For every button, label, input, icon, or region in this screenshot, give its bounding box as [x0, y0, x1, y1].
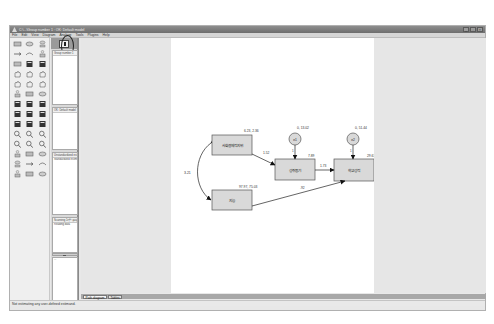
path-ses-motivation[interactable] — [252, 154, 275, 165]
scroll-button[interactable] — [12, 100, 22, 108]
select-data-files-button[interactable] — [37, 100, 47, 108]
files-item: ... — [53, 258, 77, 261]
duplicate-objects-button[interactable] — [37, 70, 47, 78]
amos-window: C:\...\Group number 1 : OK: Default mode… — [9, 25, 486, 311]
path-ses-motivation-label: 1.52 — [263, 151, 270, 155]
node-ses-label: 사회경제적지위 — [222, 143, 243, 148]
standardized-estimates-item[interactable]: Standardized estimates — [53, 158, 77, 161]
tab-path-diagram[interactable]: Path diagram — [83, 295, 107, 299]
group-item[interactable]: Group number 1 — [53, 51, 77, 56]
reflect-indicators-button[interactable] — [25, 90, 35, 98]
node-e2-label: e2 — [351, 138, 355, 142]
bootstrap-icon — [13, 160, 22, 168]
amos-app-icon — [12, 27, 17, 32]
menu-tools[interactable]: Tools — [76, 33, 84, 37]
add-unique-variable-button[interactable] — [37, 50, 47, 58]
loupe-icon — [25, 150, 34, 158]
undo-icon — [13, 170, 22, 178]
zoom-selected-button[interactable] — [12, 140, 22, 148]
path-e1-motivation-label: 1 — [292, 149, 294, 153]
node-achievement-stats: 29.63 — [367, 154, 374, 158]
models-list[interactable]: OK: Default model — [52, 107, 78, 150]
draw-covariance-icon — [25, 50, 34, 58]
copy-to-clipboard-button[interactable] — [12, 120, 22, 128]
specification-search-binoculars-button[interactable] — [37, 170, 47, 178]
move-parameter-values-button[interactable] — [37, 90, 47, 98]
redo-button[interactable] — [25, 170, 35, 178]
select-all-objects-button[interactable] — [12, 70, 22, 78]
analysis-properties-button[interactable] — [12, 110, 22, 118]
groups-list[interactable]: Group number 1 — [52, 50, 78, 105]
draw-unobserved-variable-button[interactable] — [25, 40, 35, 48]
path-motivation-achievement-label: 1.73 — [320, 164, 327, 168]
move-objects-button[interactable] — [12, 80, 22, 88]
deselect-all-objects-icon — [25, 70, 34, 78]
loupe-button[interactable] — [25, 150, 35, 158]
specification-search-button[interactable] — [37, 160, 47, 168]
drag-properties-button[interactable] — [12, 130, 22, 138]
zoom-page-icon — [38, 140, 47, 148]
view-text-button[interactable] — [37, 110, 47, 118]
change-shape-button[interactable] — [37, 80, 47, 88]
select-data-files-icon — [38, 100, 47, 108]
menu-plugins[interactable]: Plugins — [87, 33, 98, 37]
zoom-out-button[interactable] — [25, 140, 35, 148]
select-all-objects-icon — [13, 70, 22, 78]
menu-help[interactable]: Help — [103, 33, 110, 37]
view-text-icon — [38, 110, 47, 118]
menu-edit[interactable]: Edit — [21, 33, 27, 37]
multiple-group-icon — [25, 160, 34, 168]
maximize-button[interactable]: □ — [470, 27, 476, 32]
bootstrap-button[interactable] — [12, 160, 22, 168]
path-iq-achievement[interactable] — [252, 181, 345, 206]
zoom-page-button[interactable] — [37, 140, 47, 148]
zoom-out-icon — [25, 140, 34, 148]
estimates-list[interactable]: Unstandardized estimates Standardized es… — [52, 152, 78, 215]
scrollbar-thumb[interactable] — [63, 255, 66, 257]
menu-view[interactable]: View — [31, 33, 38, 37]
minimize-button[interactable]: _ — [463, 27, 469, 32]
covariance-ses-iq[interactable] — [198, 143, 212, 200]
menu-file[interactable]: File — [12, 33, 17, 37]
bayesian-estimation-button[interactable] — [37, 150, 47, 158]
close-button[interactable]: × — [477, 27, 483, 32]
view-output-toggle[interactable] — [51, 38, 77, 49]
draw-latent-variable-indicator-button[interactable] — [37, 40, 47, 48]
touch-up-button[interactable] — [25, 100, 35, 108]
diagram-page[interactable]: 3.21 사회경제적지위 6.23, 2.36 지능 97.97, 75.03 … — [171, 38, 374, 293]
model-item[interactable]: OK: Default model — [53, 108, 77, 113]
touch-up-icon — [25, 100, 34, 108]
list-variables-in-model-button[interactable] — [12, 60, 22, 68]
rotate-indicators-button[interactable] — [12, 90, 22, 98]
view-tabs: Path diagram Tables — [81, 294, 486, 299]
draw-covariance-button[interactable] — [25, 50, 35, 58]
calculate-estimates-button[interactable] — [25, 110, 35, 118]
erase-objects-button[interactable] — [25, 80, 35, 88]
deselect-all-objects-button[interactable] — [25, 70, 35, 78]
status-bar: Not estimating any user-defined estimand… — [10, 300, 485, 306]
save-diagram-button[interactable] — [25, 120, 35, 128]
object-properties-button[interactable] — [37, 120, 47, 128]
list-variables-in-dataset-button[interactable] — [25, 60, 35, 68]
multiple-group-button[interactable] — [25, 160, 35, 168]
fit-to-page-button[interactable] — [12, 150, 22, 158]
horizontal-scrollbar[interactable] — [52, 253, 78, 256]
analysis-properties-icon — [13, 110, 22, 118]
status-text: Not estimating any user-defined estimand… — [12, 302, 76, 306]
draw-path-button[interactable] — [12, 50, 22, 58]
select-one-object-button[interactable] — [37, 60, 47, 68]
undo-button[interactable] — [12, 170, 22, 178]
files-list[interactable]: ... — [52, 257, 78, 305]
model-panel: Group number 1 OK: Default model Unstand… — [51, 38, 79, 306]
draw-observed-variable-button[interactable] — [12, 40, 22, 48]
path-diagram[interactable]: 3.21 사회경제적지위 6.23, 2.36 지능 97.97, 75.03 … — [171, 38, 374, 293]
tab-tables[interactable]: Tables — [108, 295, 122, 299]
menu-diagram[interactable]: Diagram — [43, 33, 56, 37]
draw-unobserved-variable-icon — [25, 40, 34, 48]
object-properties-icon — [38, 120, 47, 128]
preserve-symmetries-button[interactable] — [25, 130, 35, 138]
draw-path-icon — [13, 50, 22, 58]
diagram-canvas-area[interactable]: 3.21 사회경제적지위 6.23, 2.36 지능 97.97, 75.03 … — [81, 38, 486, 293]
save-diagram-icon — [25, 120, 34, 128]
zoom-in-button[interactable] — [37, 130, 47, 138]
